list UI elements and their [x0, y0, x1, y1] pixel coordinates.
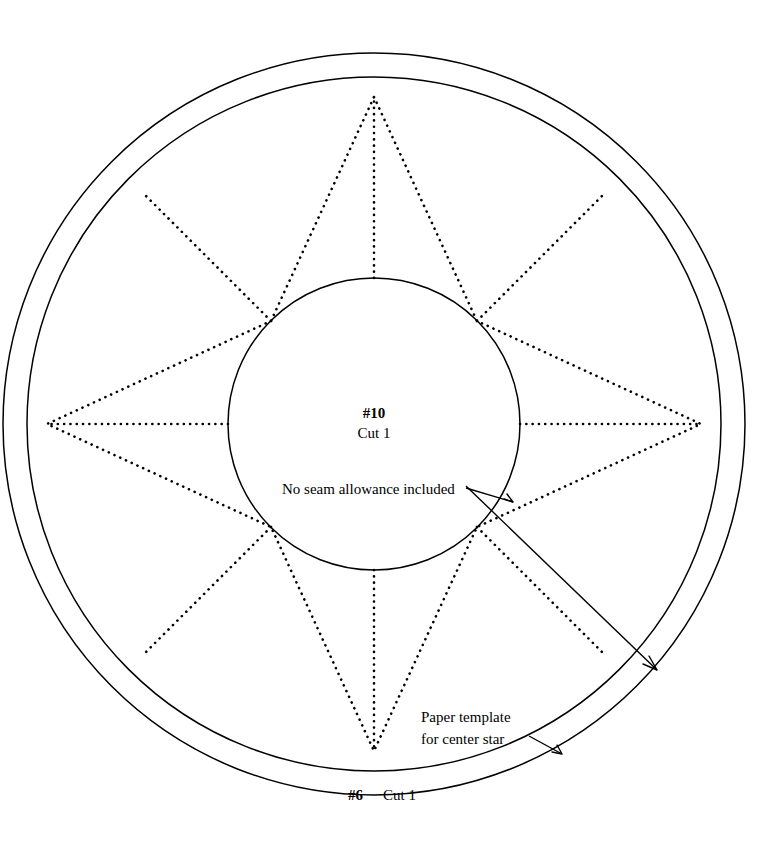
- star-spoke: [477, 527, 605, 655]
- ring-cut-label: Cut 1: [383, 787, 416, 803]
- paper-template-callout-line1: Paper template: [421, 709, 511, 725]
- dotted-star: [47, 97, 701, 751]
- template-sheet: #10 Cut 1 No seam allowance included Pap…: [0, 0, 765, 845]
- ring-pointer-arrow: [466, 486, 657, 670]
- star-spoke: [477, 193, 605, 321]
- seam-allowance-note: No seam allowance included: [282, 481, 455, 497]
- paper-template-callout-line2: for center star: [421, 731, 504, 747]
- paper-template-arrow: [529, 736, 562, 754]
- seam-allowance-arrow: [466, 488, 513, 502]
- pattern-drawing: #10 Cut 1 No seam allowance included Pap…: [0, 0, 765, 845]
- star-spoke: [143, 193, 271, 321]
- ring-piece-number: #6: [348, 787, 364, 803]
- center-piece-number: #10: [363, 405, 386, 421]
- inner-circle: [27, 77, 721, 771]
- star-spoke: [143, 527, 271, 655]
- center-cut-label: Cut 1: [358, 425, 391, 441]
